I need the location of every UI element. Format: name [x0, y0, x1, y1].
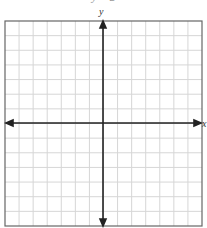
coordinate-grid — [0, 0, 207, 228]
